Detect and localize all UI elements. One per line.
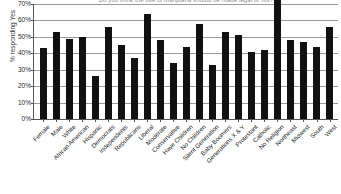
x-label-slot: West xyxy=(323,122,336,194)
plot-area: 70%60%50%40%30%20%10%0% xyxy=(33,4,338,119)
bar-slot xyxy=(193,4,206,119)
bar-slot xyxy=(271,4,284,119)
bar-slot xyxy=(245,4,258,119)
bar xyxy=(222,32,229,119)
bar-slot xyxy=(141,4,154,119)
bar xyxy=(248,52,255,119)
bar xyxy=(326,27,333,119)
bar-slot xyxy=(310,4,323,119)
bar xyxy=(144,14,151,119)
bar-slot xyxy=(167,4,180,119)
y-tick-label: 60% xyxy=(18,17,31,24)
bar-slot xyxy=(180,4,193,119)
bar xyxy=(183,47,190,119)
bar-slot xyxy=(154,4,167,119)
bar-slot xyxy=(76,4,89,119)
bar-slot xyxy=(115,4,128,119)
bar-slot xyxy=(89,4,102,119)
x-label-slot: Female xyxy=(36,122,49,194)
y-tick-label: 10% xyxy=(18,100,31,107)
bar-slot xyxy=(128,4,141,119)
bar-slot xyxy=(284,4,297,119)
x-axis-labels: FemaleMaleWhiteAfrican AmericanHispanicD… xyxy=(33,122,338,194)
bar-slot xyxy=(63,4,76,119)
bar xyxy=(53,32,60,119)
bar xyxy=(287,40,294,119)
bar xyxy=(66,39,73,120)
x-label-slot: Midwest xyxy=(297,122,310,194)
bar-slot xyxy=(297,4,310,119)
bar-slot xyxy=(323,4,336,119)
bar xyxy=(313,47,320,119)
bar xyxy=(131,58,138,119)
bar-slot xyxy=(232,4,245,119)
bar xyxy=(274,0,281,119)
bar-slot xyxy=(102,4,115,119)
y-tick-label: 50% xyxy=(18,34,31,41)
bar-slot xyxy=(206,4,219,119)
bar xyxy=(170,63,177,119)
x-label-slot: South xyxy=(310,122,323,194)
bar xyxy=(105,27,112,119)
bar xyxy=(235,35,242,119)
bar xyxy=(79,37,86,119)
bar xyxy=(209,65,216,119)
y-tick-label: 30% xyxy=(18,67,31,74)
bar xyxy=(92,76,99,119)
y-tick-label: 20% xyxy=(18,83,31,90)
bar xyxy=(118,45,125,119)
bar xyxy=(157,40,164,119)
bar xyxy=(300,42,307,119)
x-tick-label: South xyxy=(308,123,324,139)
y-tick-label: 70% xyxy=(18,1,31,8)
y-tick-label: 40% xyxy=(18,50,31,57)
bar-series xyxy=(34,4,338,119)
bar-slot xyxy=(50,4,63,119)
bar-slot xyxy=(258,4,271,119)
bar xyxy=(196,24,203,119)
bar-slot xyxy=(219,4,232,119)
y-axis-title: % responding Yes xyxy=(9,0,17,79)
bar xyxy=(261,50,268,119)
bar-slot xyxy=(37,4,50,119)
bar-chart: Do you think the use of marijuana should… xyxy=(0,0,341,194)
y-tick-label: 0% xyxy=(22,116,31,123)
x-tick-label: Female xyxy=(31,123,51,143)
x-tick-label: West xyxy=(322,123,337,138)
bar xyxy=(40,48,47,119)
